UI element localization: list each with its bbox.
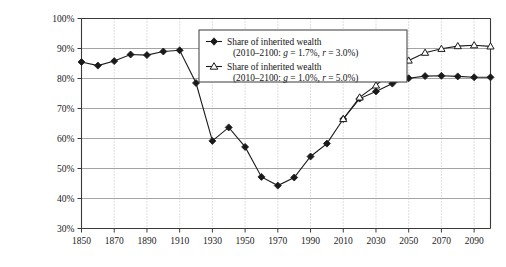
y-tick-label: 50% [57, 164, 75, 174]
legend-entry-2-g-value: = 1.0%, [288, 73, 322, 83]
x-tick-label: 2030 [366, 236, 385, 246]
legend-entry-1-g-value: = 1.7%, [288, 48, 322, 58]
x-tick-label: 1950 [236, 236, 255, 246]
x-tick-label: 1930 [203, 236, 222, 246]
x-tick-label: 1850 [72, 236, 91, 246]
legend-entry-1-prefix: (2010–2100: [233, 48, 283, 59]
y-tick-label: 60% [57, 134, 75, 144]
y-tick-label: 40% [57, 194, 75, 204]
x-tick-label: 2070 [432, 236, 451, 246]
x-tick-label: 1890 [137, 236, 156, 246]
chart-legend: Share of inherited wealth (2010–2100: g … [199, 30, 407, 84]
x-tick-label: 1870 [105, 236, 124, 246]
x-tick-label: 1970 [268, 236, 287, 246]
legend-entry-1-line2: (2010–2100: g = 1.7%, r = 3.0%) [233, 48, 358, 59]
x-tick-label: 1910 [170, 236, 189, 246]
legend-entry-2-prefix: (2010–2100: [233, 73, 283, 84]
x-tick-label: 2090 [465, 236, 484, 246]
x-tick-label: 2050 [399, 236, 418, 246]
legend-entry-1-r-value: = 3.0%) [326, 48, 359, 59]
y-tick-label: 70% [57, 104, 75, 114]
legend-entry-2-r-value: = 5.0%) [326, 73, 359, 84]
inherited-wealth-line-chart: 100%90%80%70%60%50%40%30% 18501870189019… [0, 0, 506, 267]
legend-entry-2-line2: (2010–2100: g = 1.0%, r = 5.0%) [233, 73, 358, 84]
x-tick-label: 2010 [334, 236, 353, 246]
x-tick-label: 1990 [301, 236, 320, 246]
chart-page: 100%90%80%70%60%50%40%30% 18501870189019… [0, 0, 506, 267]
y-tick-label: 80% [57, 74, 75, 84]
legend-entry-1-line1: Share of inherited wealth [227, 37, 322, 47]
y-tick-label: 30% [57, 224, 75, 234]
legend-entry-2-line1: Share of inherited wealth [227, 62, 322, 72]
y-tick-label: 90% [57, 44, 75, 54]
y-tick-label: 100% [52, 14, 74, 24]
